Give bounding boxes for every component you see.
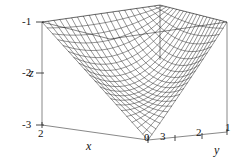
x-tick-label-0: 0 <box>144 132 150 143</box>
z-tick-label-neg2: -2 <box>22 67 31 78</box>
y-tick-label-3: 3 <box>160 131 166 142</box>
plot-canvas <box>0 0 243 164</box>
surface-mesh <box>42 5 227 140</box>
z-tick-label-neg1: -1 <box>22 16 31 27</box>
y-tick-label-1: 1 <box>225 122 231 133</box>
x-tick-label-2: 2 <box>38 128 44 139</box>
y-axis-label: y <box>214 144 219 156</box>
surface-plot-figure: z x y -1 -2 -3 2 0 3 2 1 <box>0 0 243 164</box>
z-tick-label-neg3: -3 <box>22 119 31 130</box>
y-tick-label-2: 2 <box>196 127 202 138</box>
z-axis-ticks <box>36 22 44 125</box>
x-axis-label: x <box>86 140 91 152</box>
